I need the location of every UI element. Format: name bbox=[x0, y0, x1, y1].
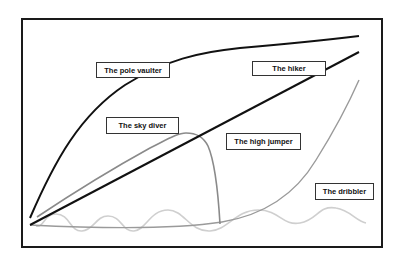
label-high-jumper: The high jumper bbox=[226, 133, 301, 150]
curves-canvas bbox=[0, 0, 403, 261]
label-dribbler: The dribbler bbox=[315, 183, 374, 200]
label-hiker: The hiker bbox=[252, 61, 326, 76]
label-sky-diver: The sky diver bbox=[106, 117, 179, 134]
curve-high-jumper bbox=[30, 80, 359, 228]
label-pole-vaulter: The pole vaulter bbox=[96, 62, 170, 78]
curve-sky-diver bbox=[37, 133, 220, 224]
curve-hiker bbox=[30, 52, 359, 225]
